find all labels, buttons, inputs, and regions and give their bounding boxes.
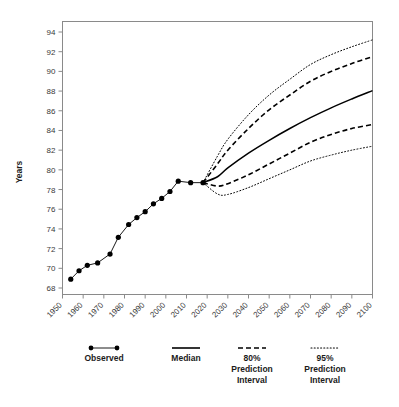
chart-background	[0, 0, 399, 407]
legend-label-pi95: 95%	[316, 353, 333, 363]
observed-data-point	[76, 268, 81, 273]
y-tick-label: 80	[47, 166, 56, 175]
life-expectancy-projection-chart: Years 9492908886848280787674727068 19501…	[0, 0, 399, 407]
observed-data-point	[200, 180, 205, 185]
observed-data-point	[107, 251, 112, 256]
chart-canvas: Years 9492908886848280787674727068 19501…	[0, 0, 399, 407]
observed-data-point	[143, 209, 148, 214]
observed-data-point	[95, 260, 100, 265]
observed-data-point	[126, 222, 131, 227]
legend-label-pi80: Interval	[237, 375, 267, 385]
y-tick-label: 74	[47, 225, 56, 234]
observed-data-point	[85, 263, 90, 268]
y-tick-label: 90	[47, 67, 56, 76]
y-tick-label: 88	[47, 87, 56, 96]
observed-data-point	[134, 215, 139, 220]
y-tick-label: 78	[47, 186, 56, 195]
legend-label-pi95: Prediction	[304, 364, 346, 374]
y-tick-label: 68	[47, 284, 56, 293]
legend-label-pi80: Prediction	[231, 364, 273, 374]
y-tick-label: 94	[47, 28, 56, 37]
observed-data-point	[68, 277, 73, 282]
observed-data-point	[116, 235, 121, 240]
observed-data-point	[167, 189, 172, 194]
legend-label-median: Median	[171, 353, 200, 363]
observed-data-point	[176, 179, 181, 184]
legend-label-pi80: 80%	[243, 353, 260, 363]
legend-marker-dot	[115, 346, 120, 351]
y-tick-label: 76	[47, 205, 56, 214]
y-tick-label: 70	[47, 264, 56, 273]
legend-label-observed: Observed	[84, 353, 123, 363]
y-tick-label: 72	[47, 245, 56, 254]
y-tick-label: 86	[47, 107, 56, 116]
y-tick-label: 82	[47, 146, 56, 155]
legend-marker-dot	[89, 346, 94, 351]
y-tick-label: 92	[47, 48, 56, 57]
observed-data-point	[188, 180, 193, 185]
observed-data-point	[151, 201, 156, 206]
observed-data-point	[159, 196, 164, 201]
y-tick-label: 84	[47, 126, 56, 135]
y-axis-title: Years	[14, 160, 24, 183]
legend-label-pi95: Interval	[310, 375, 340, 385]
